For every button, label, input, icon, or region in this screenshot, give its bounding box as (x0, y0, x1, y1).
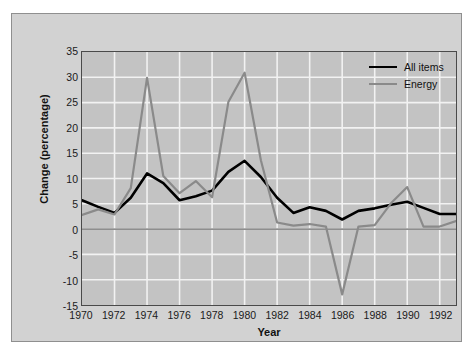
legend-item: Energy (369, 75, 459, 92)
legend-label: All items (404, 61, 444, 73)
y-tick-label: -10 (32, 276, 78, 286)
legend-label: Energy (404, 78, 437, 90)
y-tick-label: -5 (32, 250, 78, 260)
legend-line-icon (369, 66, 397, 68)
y-axis-tick-labels: 35302520151050-5-10-15 (26, 51, 78, 306)
chart-legend: All itemsEnergy (369, 58, 459, 92)
legend-line-icon (369, 83, 397, 85)
x-axis-title: Year (81, 326, 457, 338)
chart-panel: 35302520151050-5-10-15 Change (percentag… (11, 13, 462, 342)
x-axis-tick-labels: 1970197219741976197819801982198419861988… (81, 309, 457, 325)
x-tick-label: 1992 (419, 309, 463, 321)
y-axis-title: Change (percentage) (38, 54, 50, 244)
chart-figure: 35302520151050-5-10-15 Change (percentag… (0, 0, 474, 355)
legend-item: All items (369, 58, 459, 75)
